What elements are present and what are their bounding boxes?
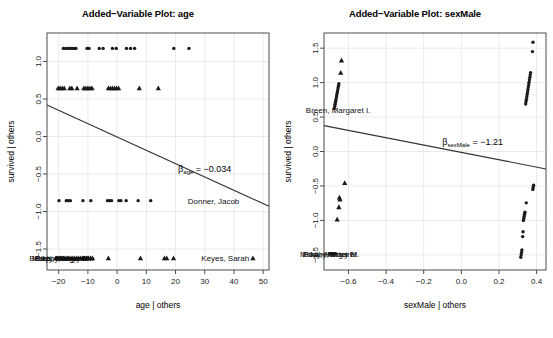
svg-text:0: 0: [115, 277, 120, 286]
svg-text:βage = −0.034: βage = −0.034: [178, 164, 231, 175]
svg-text:Pike, Harriet F.: Pike, Harriet F.: [303, 250, 355, 259]
svg-text:50: 50: [259, 277, 268, 286]
svg-text:survived | others: survived | others: [283, 120, 293, 182]
svg-text:0.0: 0.0: [311, 145, 320, 157]
svg-text:1.0: 1.0: [34, 55, 43, 67]
svg-text:10: 10: [142, 277, 151, 286]
svg-text:0.0: 0.0: [34, 130, 43, 142]
svg-text:1.0: 1.0: [311, 76, 320, 88]
svg-text:−0.6: −0.6: [341, 277, 357, 286]
svg-text:−0.5: −0.5: [34, 166, 43, 182]
panel-age: Added−Variable Plot: age −20−10010203040…: [0, 0, 276, 338]
svg-text:Donner, Jacob: Donner, Jacob: [188, 197, 240, 206]
svg-text:survived | others: survived | others: [6, 120, 16, 182]
svg-text:0.2: 0.2: [493, 277, 505, 286]
svg-text:0.5: 0.5: [34, 93, 43, 105]
svg-text:−0.2: −0.2: [416, 277, 432, 286]
panel-age-svg: −20−10010203040501.00.50.0−0.5−1.0−1.5ag…: [0, 0, 276, 338]
svg-text:Breen, Margaret I.: Breen, Margaret I.: [306, 106, 370, 115]
svg-text:−1.0: −1.0: [311, 212, 320, 228]
svg-text:−0.5: −0.5: [311, 178, 320, 194]
svg-text:Eddy, Margaret: Eddy, Margaret: [35, 254, 90, 263]
svg-text:0.0: 0.0: [456, 277, 468, 286]
svg-text:Keyes, Sarah: Keyes, Sarah: [201, 254, 249, 263]
svg-text:age | others: age | others: [136, 300, 181, 310]
panel-sexmale-svg: −0.6−0.4−0.20.00.20.41.51.00.50.0−0.5−1.…: [277, 0, 553, 338]
svg-text:1.5: 1.5: [311, 42, 320, 54]
svg-text:−1.0: −1.0: [34, 203, 43, 219]
svg-text:40: 40: [229, 277, 238, 286]
svg-text:βsexMale = −1.21: βsexMale = −1.21: [442, 137, 503, 148]
panel-sexmale: Added−Variable Plot: sexMale −0.6−0.4−0.…: [277, 0, 553, 338]
svg-text:−0.4: −0.4: [378, 277, 394, 286]
svg-text:−10: −10: [81, 277, 95, 286]
svg-text:30: 30: [200, 277, 209, 286]
svg-text:sexMale | others: sexMale | others: [404, 300, 466, 310]
added-variable-plot-figure: Added−Variable Plot: age −20−10010203040…: [0, 0, 553, 338]
svg-text:0.4: 0.4: [531, 277, 543, 286]
svg-text:−20: −20: [52, 277, 66, 286]
svg-text:20: 20: [171, 277, 180, 286]
